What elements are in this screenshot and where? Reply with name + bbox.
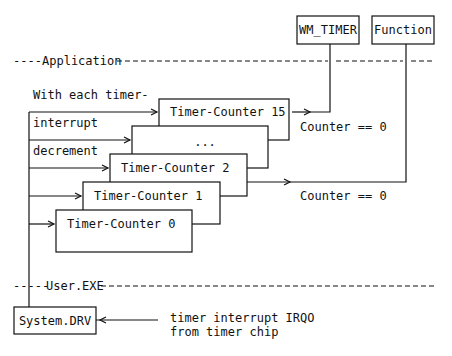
side-label-line3: decrement — [33, 144, 98, 158]
timer-counter-ellipsis-label: ... — [194, 135, 216, 149]
output-to-wm-timer — [292, 44, 330, 115]
function-node: Function — [372, 16, 434, 44]
timer-counter-15-label: Timer-Counter 15 — [170, 105, 286, 119]
system-drv-node: System.DRV — [14, 307, 96, 334]
wm-timer-label: WM_TIMER — [299, 23, 358, 37]
timer-diagram: WM_TIMER Function ---- Application With … — [0, 0, 452, 356]
timer-counter-2-label: Timer-Counter 2 — [121, 161, 229, 175]
condition-lower: Counter == 0 — [300, 189, 387, 203]
timer-counter-1-label: Timer-Counter 1 — [94, 189, 202, 203]
condition-upper: Counter == 0 — [300, 120, 387, 134]
wm-timer-node: WM_TIMER — [297, 16, 359, 44]
timer-counter-0-label: Timer-Counter 0 — [67, 217, 175, 231]
application-prefix: ---- — [13, 54, 42, 68]
system-drv-label: System.DRV — [19, 314, 91, 328]
application-layer-line: ---- Application — [13, 54, 432, 68]
interrupt-arrow — [96, 317, 158, 323]
interrupt-source-line2: from timer chip — [170, 325, 278, 339]
function-label: Function — [374, 23, 432, 37]
timer-counter-0: Timer-Counter 0 — [56, 210, 192, 252]
user-exe-prefix: ----- — [13, 279, 49, 293]
side-label-line2: interrupt — [33, 116, 98, 130]
interrupt-source-line1: timer interrupt IRQO — [170, 311, 315, 325]
user-exe-layer-line: ----- User.EXE — [13, 279, 436, 293]
application-layer-label: Application — [42, 54, 121, 68]
user-exe-layer-label: User.EXE — [46, 279, 104, 293]
side-label-line1: With each timer- — [33, 88, 149, 102]
